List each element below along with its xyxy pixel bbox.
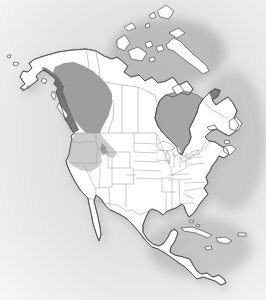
- north-america-range-map: [0, 0, 266, 300]
- island-king-william: [149, 57, 155, 62]
- island-prince-edward: [224, 140, 230, 144]
- range-map-canvas: [0, 0, 266, 300]
- island-puerto-rico: [238, 233, 246, 236]
- island-jamaica: [205, 246, 212, 250]
- island-st-matthew: [7, 55, 11, 58]
- island-bahamas-2: [196, 224, 200, 227]
